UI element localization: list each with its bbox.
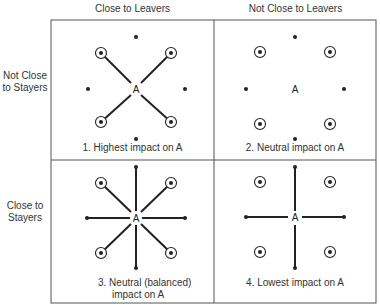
panel-4-caption: 4. Lowest impact on A bbox=[214, 277, 376, 289]
grid-frame bbox=[51, 20, 376, 303]
leaver-node bbox=[325, 177, 336, 188]
leaver-node bbox=[96, 117, 107, 128]
stayer-node bbox=[183, 87, 187, 91]
network-grid-diagram: A A A A bbox=[0, 0, 380, 308]
stayer-node bbox=[342, 215, 346, 219]
leaver-node bbox=[166, 117, 177, 128]
stayer-node bbox=[342, 87, 346, 91]
stayer-node bbox=[134, 137, 138, 141]
leaver-node bbox=[255, 177, 266, 188]
stayer-node bbox=[86, 87, 90, 91]
stayer-node bbox=[134, 266, 138, 270]
caption-line: impact on A bbox=[98, 289, 191, 301]
leaver-node bbox=[96, 248, 107, 259]
leaver-node bbox=[325, 119, 336, 130]
leaver-node bbox=[325, 247, 336, 258]
leaver-node bbox=[166, 48, 177, 59]
node-a-label: A bbox=[292, 212, 299, 223]
stayer-node bbox=[134, 35, 138, 39]
caption-line: 3. Neutral (balanced) bbox=[98, 277, 191, 289]
leaver-node bbox=[255, 47, 266, 58]
leaver-node bbox=[96, 48, 107, 59]
stayer-node bbox=[293, 165, 297, 169]
panel-3-caption: 3. Neutral (balanced) impact on A bbox=[98, 277, 191, 301]
node-a-label: A bbox=[292, 84, 299, 95]
stayer-node bbox=[293, 266, 297, 270]
node-a-label: A bbox=[133, 213, 140, 224]
leaver-node bbox=[255, 119, 266, 130]
panel-2-caption: 2. Neutral impact on A bbox=[214, 142, 376, 154]
leaver-node bbox=[255, 247, 266, 258]
node-a-label: A bbox=[133, 84, 140, 95]
stayer-node bbox=[134, 165, 138, 169]
stayer-node bbox=[183, 216, 187, 220]
leaver-node bbox=[166, 248, 177, 259]
stayer-node bbox=[244, 215, 248, 219]
stayer-node bbox=[85, 216, 89, 220]
stayer-node bbox=[244, 87, 248, 91]
stayer-node bbox=[293, 137, 297, 141]
stayer-node bbox=[293, 35, 297, 39]
leaver-node bbox=[325, 47, 336, 58]
leaver-node bbox=[166, 178, 177, 189]
leaver-node bbox=[96, 178, 107, 189]
panel-1-caption: 1. Highest impact on A bbox=[51, 142, 214, 154]
